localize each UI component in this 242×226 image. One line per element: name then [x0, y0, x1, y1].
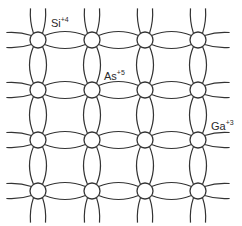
bond-vertical-right: [43, 147, 47, 185]
atom-circle: [30, 132, 46, 148]
bond-vertical-left: [30, 97, 34, 134]
atom-circle: [190, 183, 206, 199]
bond-stub-right-lower: [205, 145, 230, 148]
atom-circle: [190, 132, 206, 148]
bond-horizontal-upper: [45, 82, 86, 86]
bond-horizontal-upper: [45, 132, 86, 136]
bond-horizontal-lower: [152, 95, 192, 99]
atom-circle: [137, 82, 153, 98]
bond-stub-bottom-right: [203, 198, 206, 223]
bond-stub-bottom-left: [30, 198, 33, 223]
bond-horizontal-lower: [99, 95, 139, 99]
bond-horizontal-lower: [152, 145, 192, 149]
bond-stub-top-left: [190, 8, 193, 33]
label-si: Si+4: [51, 16, 69, 29]
atom-circle: [190, 32, 206, 48]
bond-vertical-left: [190, 47, 194, 84]
label-as: As+5: [104, 69, 125, 82]
bond-horizontal-upper: [152, 32, 192, 36]
bond-horizontal-upper: [99, 183, 139, 187]
bond-vertical-right: [150, 47, 154, 84]
bond-vertical-left: [190, 147, 194, 185]
bond-stub-right-upper: [205, 132, 230, 135]
bond-stub-bottom-right: [150, 198, 153, 223]
bond-stub-left-upper: [6, 132, 31, 135]
bond-stub-top-right: [203, 8, 206, 33]
bond-stub-left-upper: [6, 32, 31, 35]
bond-horizontal-upper: [99, 32, 139, 36]
bond-stub-bottom-right: [97, 198, 100, 223]
atom-circle: [30, 82, 46, 98]
bond-stub-right-upper: [205, 183, 230, 186]
bond-stub-left-lower: [6, 45, 31, 48]
bond-horizontal-upper: [45, 183, 86, 187]
bond-vertical-left: [190, 97, 194, 134]
bond-stub-right-upper: [205, 82, 230, 85]
bond-vertical-left: [84, 147, 88, 185]
bond-vertical-right: [150, 97, 154, 134]
bond-vertical-right: [97, 47, 101, 84]
bond-stub-top-right: [97, 8, 100, 33]
atom-circle: [84, 32, 100, 48]
bond-vertical-right: [203, 97, 207, 134]
bond-horizontal-lower: [45, 145, 86, 149]
bond-vertical-right: [203, 147, 207, 185]
bond-stub-bottom-left: [190, 198, 193, 223]
bond-stub-left-lower: [6, 145, 31, 148]
bond-vertical-left: [137, 47, 141, 84]
bond-vertical-right: [43, 47, 47, 84]
crystal-lattice-diagram: Si+4 As+5 Ga+3: [0, 0, 242, 226]
bond-stub-right-lower: [205, 45, 230, 48]
bond-horizontal-upper: [99, 82, 139, 86]
atom-circle: [84, 82, 100, 98]
bond-stub-right-lower: [205, 196, 230, 199]
bond-vertical-right: [97, 147, 101, 185]
bond-stub-bottom-left: [84, 198, 87, 223]
bond-horizontal-lower: [152, 196, 192, 200]
bond-vertical-left: [84, 47, 88, 84]
bond-vertical-right: [150, 147, 154, 185]
bond-vertical-left: [137, 97, 141, 134]
label-ga: Ga+3: [211, 119, 234, 132]
bond-horizontal-lower: [99, 145, 139, 149]
bond-stub-top-right: [150, 8, 153, 33]
bond-stub-top-left: [84, 8, 87, 33]
atom-circle: [84, 183, 100, 199]
bond-horizontal-upper: [152, 132, 192, 136]
bond-stub-right-lower: [205, 95, 230, 98]
bond-horizontal-lower: [99, 45, 139, 49]
bond-horizontal-lower: [45, 45, 86, 49]
bond-vertical-right: [97, 97, 101, 134]
atom-circle: [137, 32, 153, 48]
bond-vertical-left: [30, 147, 34, 185]
bond-vertical-left: [137, 147, 141, 185]
bond-vertical-right: [203, 47, 207, 84]
bond-horizontal-upper: [99, 132, 139, 136]
bond-stub-top-left: [137, 8, 140, 33]
bond-horizontal-lower: [45, 95, 86, 99]
bond-stub-top-right: [43, 8, 46, 33]
atom-circle: [190, 82, 206, 98]
bond-stub-left-upper: [6, 183, 31, 186]
bond-vertical-left: [30, 47, 34, 84]
bond-stub-bottom-right: [43, 198, 46, 223]
bond-horizontal-lower: [45, 196, 86, 200]
bond-horizontal-lower: [99, 196, 139, 200]
bond-horizontal-upper: [152, 183, 192, 187]
bond-stub-right-upper: [205, 32, 230, 35]
atom-circle: [137, 132, 153, 148]
bond-vertical-right: [43, 97, 47, 134]
atoms: [30, 32, 206, 199]
bond-stub-left-lower: [6, 95, 31, 98]
bond-stub-left-lower: [6, 196, 31, 199]
bond-vertical-left: [84, 97, 88, 134]
bond-stub-left-upper: [6, 82, 31, 85]
atom-circle: [84, 132, 100, 148]
bond-stub-top-left: [30, 8, 33, 33]
atom-circle: [137, 183, 153, 199]
bond-stub-bottom-left: [137, 198, 140, 223]
atom-circle: [30, 32, 46, 48]
atom-circle: [30, 183, 46, 199]
bond-horizontal-upper: [152, 82, 192, 86]
bond-horizontal-upper: [45, 32, 86, 36]
